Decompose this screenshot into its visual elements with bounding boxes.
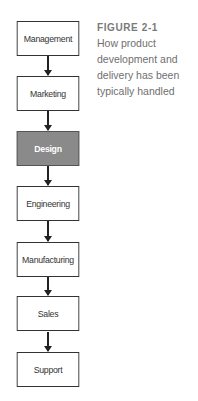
arrow-down-icon: [47, 56, 49, 75]
arrow-down-icon: [47, 277, 49, 295]
step-design: Design: [17, 131, 80, 166]
step-management: Management: [17, 21, 80, 56]
arrow-down-icon: [47, 221, 49, 241]
step-engineering: Engineering: [17, 186, 80, 221]
arrow-down-icon: [47, 166, 49, 185]
step-manufacturing: Manufacturing: [17, 242, 80, 277]
arrow-down-icon: [47, 332, 49, 351]
step-sales: Sales: [17, 296, 80, 331]
figure-description: How product development and delivery has…: [97, 35, 198, 99]
step-marketing: Marketing: [17, 76, 80, 111]
figure-caption: FIGURE 2-1 How product development and d…: [97, 20, 198, 99]
figure-label: FIGURE 2-1: [97, 20, 198, 35]
arrow-down-icon: [47, 111, 49, 130]
step-support: Support: [17, 352, 80, 387]
